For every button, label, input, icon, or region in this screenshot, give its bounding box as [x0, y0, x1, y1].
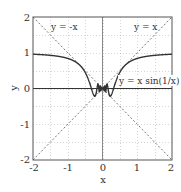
annotation-y-neg-x: y = -x	[50, 22, 77, 32]
y-tick-label: 2	[24, 12, 30, 23]
x-axis-label: x	[100, 174, 106, 185]
y-tick-label: 0	[24, 83, 30, 94]
x-tick-label: 0	[100, 162, 106, 173]
y-tick-label: 1	[24, 47, 30, 58]
y-tick-label: -1	[20, 119, 30, 130]
x-tick-label: 2	[168, 162, 174, 173]
annotation-y-x: y = x	[133, 22, 157, 32]
chart: y = -x y = x y = x sin(1/x) 2 1 0 -1 -2 …	[0, 0, 181, 192]
x-tick-label: -1	[63, 162, 73, 173]
annotation-curve: y = x sin(1/x)	[118, 76, 179, 86]
x-tick-label: -2	[29, 162, 39, 173]
y-axis-label: y	[8, 85, 19, 92]
x-tick-label: 1	[134, 162, 140, 173]
